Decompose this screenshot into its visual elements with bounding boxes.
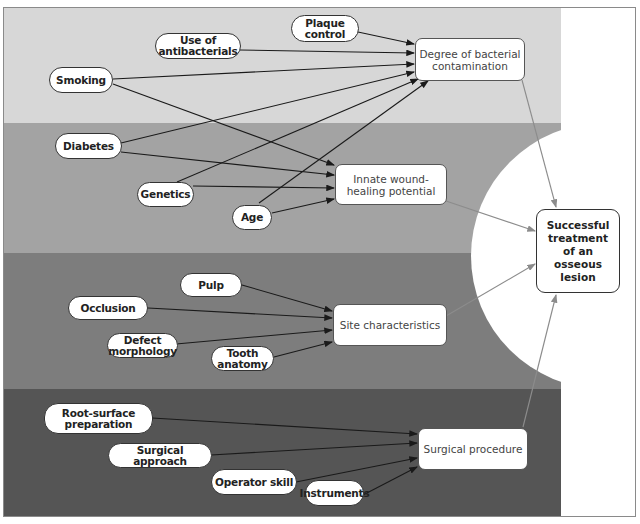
- factor-root-surface-preparation: Root-surface preparation: [44, 403, 153, 434]
- factor-pulp: Pulp: [180, 273, 242, 297]
- factor-operator-skill: Operator skill: [211, 469, 297, 495]
- factor-defect-morphology: Defect morphology: [107, 333, 178, 358]
- hub-surgical-procedure: Surgical procedure: [418, 428, 528, 470]
- factor-age: Age: [232, 205, 272, 230]
- hub-wound-healing-potential: Innate wound-healing potential: [335, 164, 447, 205]
- hub-site-characteristics: Site characteristics: [333, 304, 447, 346]
- factor-smoking: Smoking: [49, 67, 113, 93]
- factor-surgical-approach: Surgical approach: [108, 443, 212, 468]
- factor-genetics: Genetics: [137, 182, 194, 207]
- outcome-successful-treatment: Successful treatment of an osseous lesio…: [536, 209, 620, 293]
- factor-instruments: Instruments: [305, 480, 364, 506]
- factor-plaque-control: Plaque control: [291, 15, 359, 42]
- factor-diabetes: Diabetes: [55, 133, 122, 159]
- factor-tooth-anatomy: Tooth anatomy: [211, 346, 274, 371]
- hub-bacterial-contamination: Degree of bacterial contamination: [415, 38, 525, 81]
- factor-use-of-antibacterials: Use of antibacterials: [155, 33, 241, 59]
- factor-occlusion: Occlusion: [68, 296, 148, 320]
